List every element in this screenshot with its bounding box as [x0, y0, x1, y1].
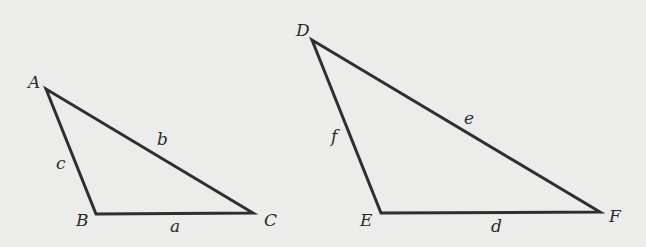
side-label-c: c — [56, 155, 66, 172]
diagram-canvas — [0, 0, 646, 247]
vertex-label-f: F — [609, 208, 621, 225]
side-label-d: d — [491, 218, 502, 235]
vertex-label-b: B — [76, 212, 89, 229]
side-label-e: e — [464, 110, 474, 127]
triangle-abc — [46, 89, 253, 214]
vertex-label-a: A — [28, 74, 40, 91]
triangle-def — [312, 40, 600, 213]
vertex-label-e: E — [360, 212, 372, 229]
side-label-b: b — [157, 131, 168, 148]
side-label-f: f — [331, 128, 337, 145]
side-label-a: a — [170, 218, 180, 235]
vertex-label-c: C — [264, 212, 277, 229]
vertex-label-d: D — [296, 22, 310, 39]
